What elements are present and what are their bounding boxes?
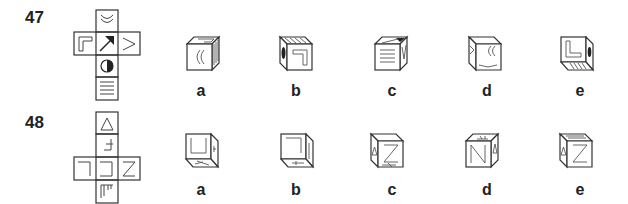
option-label-47-d: d <box>477 82 497 100</box>
cube-option-48-a[interactable] <box>183 131 223 171</box>
option-label-48-d: d <box>477 181 497 199</box>
question-number-48: 48 <box>25 113 44 133</box>
option-label-48-b: b <box>286 181 306 199</box>
option-label-48-e: e <box>570 181 590 199</box>
cube-option-47-c[interactable] <box>372 32 412 72</box>
chevron-right-icon <box>123 38 135 50</box>
cube-option-48-b[interactable] <box>278 131 318 171</box>
cross-bracket-icon <box>104 139 113 150</box>
cube-option-47-d[interactable] <box>466 32 506 72</box>
cube-option-48-e[interactable] <box>557 131 597 171</box>
option-label-47-c: c <box>382 82 402 100</box>
square-bracket-icon <box>100 162 112 176</box>
option-label-48-a: a <box>191 181 211 199</box>
cube-option-47-a[interactable] <box>184 32 224 72</box>
half-circle-icon <box>101 60 113 72</box>
option-label-47-b: b <box>286 82 306 100</box>
cube-option-47-b[interactable] <box>277 32 317 72</box>
arrow-icon <box>100 36 114 51</box>
triangle-icon <box>101 118 113 130</box>
comb-lines-icon <box>101 185 113 198</box>
cube-option-48-d[interactable] <box>463 131 503 171</box>
option-label-47-e: e <box>570 82 590 100</box>
corner-bracket-icon <box>78 162 90 176</box>
double-arc-icon <box>101 15 113 23</box>
cube-net-47 <box>0 0 628 204</box>
option-label-48-c: c <box>382 181 402 199</box>
letter-z-icon <box>123 162 135 176</box>
cube-option-47-e[interactable] <box>558 32 598 72</box>
option-label-47-a: a <box>191 82 211 100</box>
cube-option-48-c[interactable] <box>368 131 408 171</box>
corner-l-icon <box>79 37 92 51</box>
horizontal-lines-icon <box>100 82 114 94</box>
